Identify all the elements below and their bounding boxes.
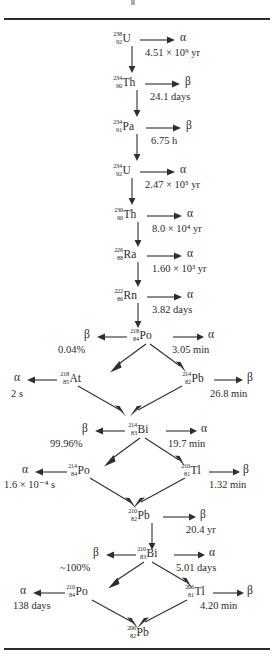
particle-ra226-alpha: α bbox=[187, 248, 193, 260]
arrow-po218-beta bbox=[97, 333, 127, 341]
halflife-tl210: 1.32 min bbox=[209, 480, 246, 491]
arrow-at218-alpha bbox=[27, 376, 57, 384]
particle-rn222-alpha: α bbox=[187, 289, 193, 301]
halflife-pa234: 6.75 h bbox=[151, 136, 177, 147]
halflife-bi214: 19.7 min bbox=[168, 439, 205, 450]
arrow-bi210-to-po210 bbox=[108, 562, 146, 590]
arrow-pb214-to-bi214 bbox=[130, 386, 184, 418]
arrow-u234-alpha bbox=[140, 168, 176, 176]
nuclide-tl210: 21081Tl bbox=[179, 464, 201, 476]
particle-th230-alpha: α bbox=[187, 208, 193, 220]
halflife-pb210: 20.4 yr bbox=[186, 525, 216, 536]
nuclide-tl206: 20681Tl bbox=[183, 585, 205, 597]
halflife-po214: 1.6 × 10⁻⁴ s bbox=[4, 480, 55, 491]
nuclide-tl206-indices: 20681 bbox=[183, 585, 194, 597]
halflife-po218: 3.05 min bbox=[172, 345, 209, 356]
arrow-bi214-beta bbox=[95, 427, 125, 435]
particle-tl206-beta: β bbox=[247, 585, 253, 597]
nuclide-pb214-indices: 21482 bbox=[180, 372, 191, 384]
top-rule bbox=[4, 18, 270, 20]
halflife-u234: 2.47 × 10⁵ yr bbox=[145, 180, 200, 191]
nuclide-at218: 21885At bbox=[58, 372, 81, 384]
halflife-tl206: 4.20 min bbox=[200, 601, 237, 612]
bottom-rule bbox=[4, 648, 270, 650]
nuclide-th230-indices: 23090 bbox=[112, 208, 123, 220]
arrow-u238-alpha bbox=[140, 36, 176, 44]
arrow-bi210-beta bbox=[106, 551, 136, 559]
nuclide-at218-indices: 21885 bbox=[58, 372, 69, 384]
particle-u234-alpha: α bbox=[180, 164, 186, 176]
particle-pa234-beta: β bbox=[186, 120, 192, 132]
arrow-bi210-alpha bbox=[174, 551, 206, 559]
nuclide-pb206-indices: 20682 bbox=[125, 626, 136, 638]
halflife-at218: 2 s bbox=[11, 389, 23, 400]
nuclide-rn222: 22286Rn bbox=[112, 289, 137, 301]
nuclide-th234: 23490Th bbox=[111, 76, 135, 88]
decay-chain-figure: 23892U 23490Th 23491Pa 23492U 23090Th 22… bbox=[0, 0, 274, 664]
arrow-u234-to-th230 bbox=[128, 178, 136, 206]
nuclide-tl210-indices: 21081 bbox=[179, 464, 190, 476]
nuclide-po218-indices: 21884 bbox=[128, 329, 139, 341]
nuclide-ra226: 22688Ra bbox=[112, 248, 136, 260]
arrow-po218-alpha bbox=[173, 333, 205, 341]
nuclide-u234: 23492U bbox=[111, 164, 131, 176]
particle-po218-alpha: α bbox=[208, 329, 214, 341]
branch-bi214-beta: 99.96% bbox=[50, 439, 82, 450]
nuclide-pb210: 21082Pb bbox=[126, 509, 150, 521]
arrow-pb214-beta bbox=[214, 376, 244, 384]
arrow-u238-to-th234 bbox=[128, 46, 136, 74]
arrow-po218-to-at218 bbox=[110, 344, 148, 374]
arrow-tl210-beta bbox=[209, 468, 241, 476]
arrow-ra226-to-rn222 bbox=[134, 262, 142, 288]
particle-tl210-beta: β bbox=[243, 464, 249, 476]
nuclide-bi214-indices: 21483 bbox=[126, 423, 137, 435]
arrow-po214-alpha bbox=[35, 468, 67, 476]
particle-pb210-beta: β bbox=[200, 509, 206, 521]
halflife-pb214: 26.8 min bbox=[210, 389, 247, 400]
arrow-th234-beta bbox=[145, 80, 181, 88]
cropped-text-fragment bbox=[131, 0, 135, 5]
particle-th234-beta: β bbox=[185, 76, 191, 88]
particle-pb214-beta: β bbox=[247, 372, 253, 384]
nuclide-po214-indices: 21484 bbox=[66, 464, 77, 476]
nuclide-pb210-indices: 21082 bbox=[126, 509, 137, 521]
arrow-pa234-beta bbox=[146, 124, 182, 132]
nuclide-po210: 21084Po bbox=[64, 585, 88, 597]
particle-po210-alpha: α bbox=[20, 585, 26, 597]
arrow-th230-alpha bbox=[147, 212, 183, 220]
branch-po218-beta: 0.04% bbox=[58, 345, 85, 356]
nuclide-u238-indices: 23892 bbox=[111, 32, 122, 44]
arrow-tl210-to-pb210 bbox=[133, 478, 187, 510]
nuclide-ra226-indices: 22688 bbox=[112, 248, 123, 260]
arrow-ra226-alpha bbox=[147, 252, 183, 260]
particle-bi214-alpha: α bbox=[201, 423, 207, 435]
nuclide-rn222-indices: 22286 bbox=[112, 289, 123, 301]
halflife-ra226: 1.60 × 10³ yr bbox=[152, 264, 207, 275]
particle-bi210-alpha: α bbox=[209, 547, 215, 559]
arrow-po214-to-pb210 bbox=[90, 478, 138, 510]
arrow-bi214-alpha bbox=[166, 427, 198, 435]
nuclide-po218: 21884Po bbox=[128, 329, 152, 341]
nuclide-th234-indices: 23490 bbox=[111, 76, 122, 88]
halflife-u238: 4.51 × 10⁹ yr bbox=[145, 48, 200, 59]
halflife-th230: 8.0 × 10⁴ yr bbox=[152, 224, 202, 235]
nuclide-pa234: 23491Pa bbox=[111, 120, 134, 132]
arrow-bi214-to-po214 bbox=[104, 438, 142, 468]
nuclide-pa234-indices: 23491 bbox=[111, 120, 122, 132]
nuclide-bi210-indices: 21083 bbox=[135, 547, 146, 559]
branch-bi210-beta: ~100% bbox=[60, 563, 90, 574]
halflife-po210: 138 days bbox=[13, 601, 51, 612]
arrow-th234-to-pa234 bbox=[133, 90, 141, 118]
nuclide-bi210: 21083Bi bbox=[135, 547, 157, 559]
arrow-rn222-to-po218 bbox=[134, 303, 142, 329]
particle-bi210-beta: β bbox=[93, 547, 99, 559]
nuclide-u238: 23892U bbox=[111, 32, 131, 44]
arrow-rn222-alpha bbox=[147, 293, 183, 301]
arrow-pb210-beta bbox=[163, 513, 197, 521]
particle-bi214-beta: β bbox=[82, 423, 88, 435]
particle-po214-alpha: α bbox=[22, 464, 28, 476]
particle-at218-alpha: α bbox=[14, 372, 20, 384]
nuclide-pb214: 21482Pb bbox=[180, 372, 204, 384]
arrow-tl206-beta bbox=[213, 589, 245, 597]
nuclide-bi214: 21483Bi bbox=[126, 423, 148, 435]
